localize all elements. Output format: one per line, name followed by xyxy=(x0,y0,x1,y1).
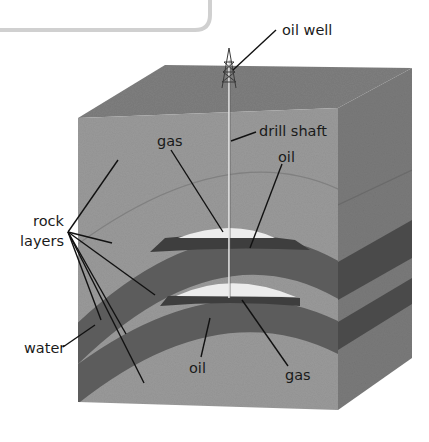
oil-trap-diagram: oil well drill shaft gas oil rock layers… xyxy=(0,0,429,442)
label-rock-layers-1: rock xyxy=(33,213,64,229)
label-water: water xyxy=(24,340,65,356)
label-gas-upper: gas xyxy=(157,133,183,149)
label-drill-shaft: drill shaft xyxy=(259,123,327,139)
label-oil-lower: oil xyxy=(189,360,206,376)
label-rock-layers-2: layers xyxy=(20,233,64,249)
block-side-face xyxy=(330,60,420,420)
callout-box-edge xyxy=(0,0,210,30)
label-gas-lower: gas xyxy=(285,367,311,383)
label-oil-upper: oil xyxy=(278,149,295,165)
label-oil-well: oil well xyxy=(282,22,332,38)
